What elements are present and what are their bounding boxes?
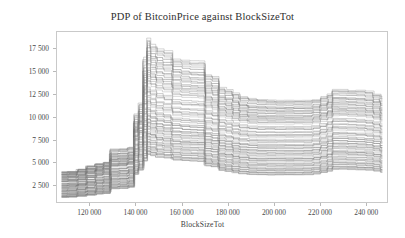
x-tick-mark xyxy=(89,203,90,206)
chart-figure: PDP of BitcoinPrice against BlockSizeTot… xyxy=(0,0,405,238)
x-tick-mark xyxy=(135,203,136,206)
y-tick-label: 12 500 xyxy=(0,89,49,98)
plot-area xyxy=(56,31,388,203)
x-tick-mark xyxy=(274,203,275,206)
x-tick-label: 140 000 xyxy=(123,208,147,217)
y-tick-label: 10 000 xyxy=(0,112,49,121)
y-tick-label: 17 500 xyxy=(0,43,49,52)
ice-curve xyxy=(62,60,383,175)
x-axis-label: BlockSizeTot xyxy=(0,220,405,229)
y-tick-label: 5 000 xyxy=(0,158,49,167)
y-tick-label: 15 000 xyxy=(0,66,49,75)
y-tick-label: 7 500 xyxy=(0,135,49,144)
y-tick-mark xyxy=(53,162,56,163)
x-tick-mark xyxy=(366,203,367,206)
x-tick-label: 220 000 xyxy=(308,208,332,217)
y-tick-mark xyxy=(53,117,56,118)
x-tick-label: 200 000 xyxy=(262,208,286,217)
x-tick-mark xyxy=(182,203,183,206)
y-tick-mark xyxy=(53,71,56,72)
x-tick-label: 120 000 xyxy=(77,208,101,217)
y-tick-mark xyxy=(53,48,56,49)
chart-title: PDP of BitcoinPrice against BlockSizeTot xyxy=(0,11,405,22)
x-tick-mark xyxy=(320,203,321,206)
x-tick-label: 240 000 xyxy=(354,208,378,217)
x-tick-label: 160 000 xyxy=(170,208,194,217)
ice-curves-svg xyxy=(57,32,387,202)
y-tick-mark xyxy=(53,140,56,141)
x-tick-label: 180 000 xyxy=(216,208,240,217)
y-tick-label: 2 500 xyxy=(0,181,49,190)
y-tick-mark xyxy=(53,94,56,95)
x-tick-mark xyxy=(228,203,229,206)
y-tick-mark xyxy=(53,185,56,186)
